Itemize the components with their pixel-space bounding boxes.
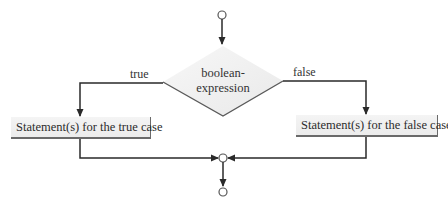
true-case-statement-box: Statement(s) for the true case bbox=[11, 117, 151, 139]
false-case-statement-box: Statement(s) for the false case bbox=[296, 115, 438, 137]
decision-text-line1: boolean- bbox=[183, 66, 263, 81]
flowchart-canvas: boolean- expression true false Statement… bbox=[0, 0, 448, 210]
merge-node bbox=[219, 154, 227, 162]
end-node bbox=[219, 188, 227, 196]
edge-false-to-merge bbox=[228, 136, 366, 158]
decision-text: boolean- expression bbox=[183, 66, 263, 96]
decision-text-line2: expression bbox=[183, 81, 263, 96]
edge-decision-to-true bbox=[80, 83, 163, 116]
edge-true-to-merge bbox=[80, 138, 218, 158]
start-node bbox=[218, 11, 226, 19]
edge-decision-to-false bbox=[283, 81, 366, 114]
true-branch-label: true bbox=[130, 68, 149, 80]
false-branch-label: false bbox=[293, 66, 316, 78]
flowchart-connectors bbox=[0, 0, 448, 210]
